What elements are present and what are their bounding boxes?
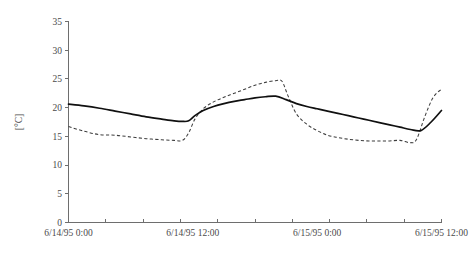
x-axis-tick-label: 6/15/95 12:00: [415, 228, 468, 238]
y-axis-title: [°C]: [14, 114, 24, 130]
y-axis-tick-label: 35: [53, 17, 63, 27]
y-axis-tick-label-group: 05101520253035: [53, 17, 63, 228]
x-axis-tick-label: 6/14/95 12:00: [166, 228, 219, 238]
temperature-line-chart: 05101520253035 6/14/95 0:006/14/95 12:00…: [0, 0, 473, 254]
y-axis-tick-label: 30: [53, 46, 63, 56]
y-axis-tick-label: 10: [53, 160, 63, 170]
y-axis-tick-label: 5: [57, 189, 62, 199]
x-axis-tick-label-group: 6/14/95 0:006/14/95 12:006/15/95 0:006/1…: [44, 228, 468, 238]
x-axis-tick-label: 6/15/95 0:00: [293, 228, 342, 238]
y-axis-tick-label: 25: [53, 74, 63, 84]
solid-temperature-series: [69, 96, 442, 131]
x-axis-tick-label: 6/14/95 0:00: [44, 228, 93, 238]
y-axis-tick-label: 0: [57, 218, 62, 228]
y-axis-tick-label: 20: [53, 103, 63, 113]
y-axis-tick-label: 15: [53, 132, 63, 142]
dashed-temperature-series: [69, 80, 442, 143]
chart-container: 05101520253035 6/14/95 0:006/14/95 12:00…: [0, 0, 473, 254]
axis-tick-mark-group: [65, 22, 442, 223]
